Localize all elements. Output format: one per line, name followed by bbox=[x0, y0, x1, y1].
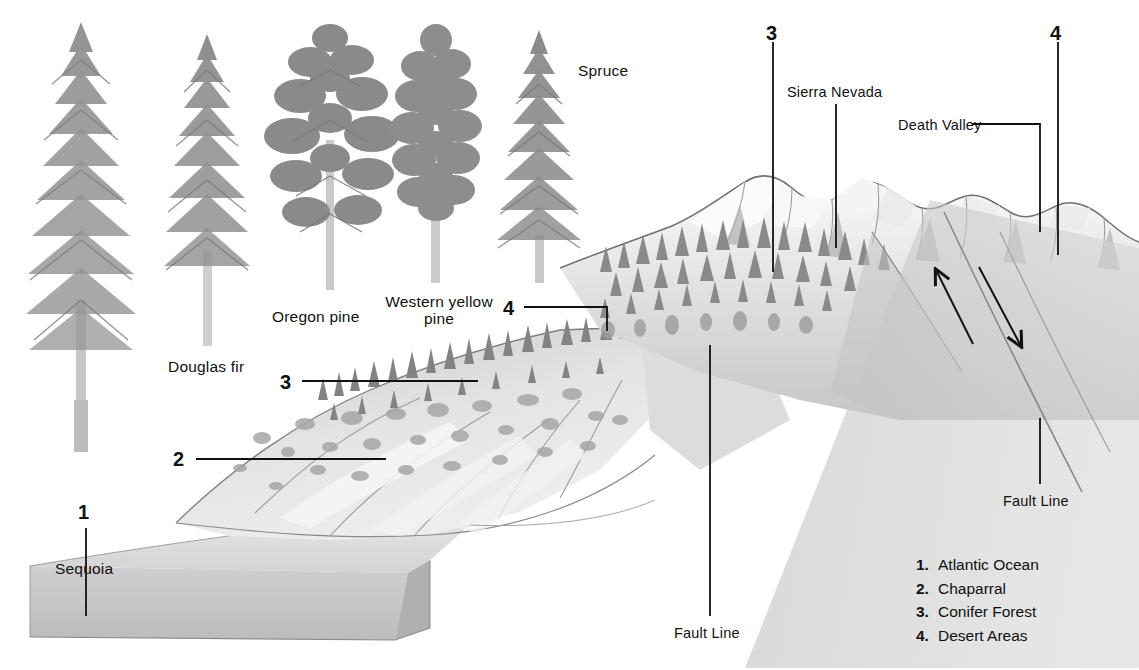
tree-western-yellow-pine-icon bbox=[390, 24, 482, 283]
legend-label-chaparral: Chaparral bbox=[938, 580, 1006, 598]
legend-number-4: 4. bbox=[916, 627, 938, 645]
legend-number-3: 3. bbox=[916, 603, 938, 621]
legend-label-atlantic-ocean: Atlantic Ocean bbox=[938, 556, 1039, 574]
tree-label-sequoia: Sequoia bbox=[55, 560, 113, 578]
tree-douglas-fir-icon bbox=[164, 34, 250, 346]
callout-number-1: 1 bbox=[78, 501, 89, 524]
legend-item-4: 4. Desert Areas bbox=[916, 627, 1039, 645]
callout-number-4-mid: 4 bbox=[503, 297, 514, 320]
tree-sequoia-icon bbox=[26, 22, 136, 452]
place-label-sierra-nevada: Sierra Nevada bbox=[787, 84, 882, 100]
place-label-death-valley: Death Valley bbox=[898, 117, 982, 133]
legend: 1. Atlantic Ocean 2. Chaparral 3. Conife… bbox=[916, 556, 1039, 650]
place-label-fault-line-bottom: Fault Line bbox=[674, 625, 740, 641]
tree-label-spruce: Spruce bbox=[578, 62, 628, 80]
legend-number-1: 1. bbox=[916, 556, 938, 574]
legend-number-2: 2. bbox=[916, 580, 938, 598]
tree-label-western-yellow-pine: Western yellow pine bbox=[381, 293, 497, 328]
legend-item-3: 3. Conifer Forest bbox=[916, 603, 1039, 621]
callout-number-2: 2 bbox=[173, 448, 184, 471]
callout-number-3-upper: 3 bbox=[766, 22, 777, 45]
tree-oregon-pine-icon bbox=[264, 24, 400, 290]
legend-item-2: 2. Chaparral bbox=[916, 580, 1039, 598]
legend-label-conifer-forest: Conifer Forest bbox=[938, 603, 1036, 621]
tree-label-oregon-pine: Oregon pine bbox=[272, 308, 360, 326]
tree-spruce-icon bbox=[497, 30, 581, 283]
diagram-canvas: Sequoia Douglas fir Oregon pine Western … bbox=[0, 0, 1139, 670]
callout-number-3-lower: 3 bbox=[280, 371, 291, 394]
tree-label-douglas-fir: Douglas fir bbox=[168, 358, 244, 376]
callout-number-4-upper: 4 bbox=[1050, 22, 1061, 45]
place-label-fault-line-right: Fault Line bbox=[1003, 493, 1069, 509]
legend-label-desert-areas: Desert Areas bbox=[938, 627, 1028, 645]
legend-item-1: 1. Atlantic Ocean bbox=[916, 556, 1039, 574]
coastal-plain-block bbox=[30, 521, 470, 640]
